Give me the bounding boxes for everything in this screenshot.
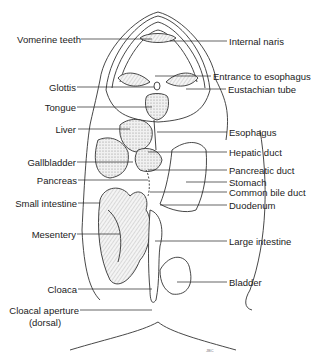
label-cloaca: Cloaca xyxy=(40,284,77,295)
label-cloacal-aperture-dorsal: (dorsal) xyxy=(20,317,70,328)
label-cloacal-aperture: Cloacal aperture xyxy=(6,305,79,316)
label-pancreatic-duct: Pancreatic duct xyxy=(229,165,294,176)
mouth-cavity xyxy=(106,16,210,122)
label-large-intestine: Large intestine xyxy=(229,236,291,247)
label-common-bile-duct: Common bile duct xyxy=(229,187,306,198)
label-liver: Liver xyxy=(40,124,76,135)
label-mesentery: Mesentery xyxy=(28,229,76,240)
label-duodenum: Duodenum xyxy=(229,200,275,211)
artist-mark: JBC xyxy=(206,345,214,356)
viscera xyxy=(95,119,206,302)
label-hepatic-duct: Hepatic duct xyxy=(229,147,282,158)
label-internal-naris: Internal naris xyxy=(229,36,284,47)
label-entrance-to-esophagus: Entrance to esophagus xyxy=(213,71,311,82)
label-glottis: Glottis xyxy=(40,82,76,93)
label-tongue: Tongue xyxy=(40,102,76,113)
label-pancreas: Pancreas xyxy=(30,175,77,186)
label-gallbladder: Gallbladder xyxy=(20,157,76,168)
label-eustachian-tube: Eustachian tube xyxy=(228,84,296,95)
label-vomerine-teeth: Vomerine teeth xyxy=(15,34,81,45)
label-bladder: Bladder xyxy=(229,277,262,288)
label-small-intestine: Small intestine xyxy=(6,198,77,209)
label-esophagus: Esophagus xyxy=(229,127,277,138)
frog-digestive-diagram: Vomerine teeth Glottis Tongue Liver Gall… xyxy=(0,0,321,359)
